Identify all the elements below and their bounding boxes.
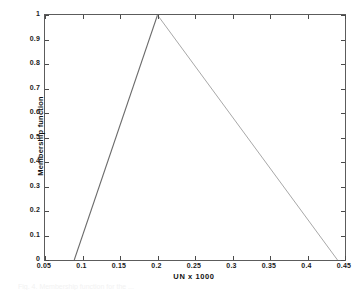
y-tick-right xyxy=(341,162,345,163)
x-tick xyxy=(195,256,196,260)
x-tick xyxy=(233,256,234,260)
y-tick xyxy=(45,64,49,65)
y-tick xyxy=(45,89,49,90)
y-tick xyxy=(45,138,49,139)
x-tick-top xyxy=(120,15,121,19)
x-tick-label: 0.1 xyxy=(76,262,86,270)
y-tick-right xyxy=(341,138,345,139)
x-tick-label: 0.4 xyxy=(301,262,311,270)
y-axis-label: Membership function xyxy=(36,96,45,176)
x-tick-top xyxy=(83,15,84,19)
y-tick-right xyxy=(341,113,345,114)
y-tick xyxy=(45,236,49,237)
y-tick-label: 0.9 xyxy=(30,35,40,43)
y-tick xyxy=(45,40,49,41)
x-tick-label: 0.05 xyxy=(37,262,51,270)
y-tick-right xyxy=(341,15,345,16)
x-tick-top xyxy=(195,15,196,19)
y-tick-label: 0.2 xyxy=(30,206,40,214)
y-tick xyxy=(45,211,49,212)
x-tick-top xyxy=(233,15,234,19)
x-tick xyxy=(270,256,271,260)
x-tick-label: 0.35 xyxy=(262,262,276,270)
x-tick xyxy=(120,256,121,260)
x-tick-label: 0.3 xyxy=(226,262,236,270)
y-tick xyxy=(45,15,49,16)
y-tick-right xyxy=(341,40,345,41)
y-tick-right xyxy=(341,236,345,237)
y-tick xyxy=(45,113,49,114)
y-tick-right xyxy=(341,64,345,65)
y-tick-label: 0 xyxy=(36,255,40,263)
y-tick-label: 1 xyxy=(36,10,40,18)
y-tick xyxy=(45,162,49,163)
series-falling-edge xyxy=(158,15,338,260)
x-tick xyxy=(158,256,159,260)
x-tick-label: 0.2 xyxy=(151,262,161,270)
y-tick-right xyxy=(341,260,345,261)
x-tick xyxy=(308,256,309,260)
y-tick-right xyxy=(341,187,345,188)
series-rising-edge xyxy=(74,15,157,260)
membership-function-curve xyxy=(45,15,345,260)
y-tick xyxy=(45,187,49,188)
y-tick-label: 0.7 xyxy=(30,84,40,92)
y-tick-label: 0.8 xyxy=(30,59,40,67)
x-axis-label: UN x 1000 xyxy=(173,272,214,281)
figure-container: 0.050.10.150.20.250.30.350.40.45 00.10.2… xyxy=(0,0,359,293)
x-tick-label: 0.15 xyxy=(112,262,126,270)
y-tick-label: 0.3 xyxy=(30,182,40,190)
y-tick-right xyxy=(341,211,345,212)
x-tick-top xyxy=(270,15,271,19)
y-tick xyxy=(45,260,49,261)
x-tick-top xyxy=(308,15,309,19)
y-tick-right xyxy=(341,89,345,90)
x-tick-top xyxy=(345,15,346,19)
x-tick-label: 0.25 xyxy=(187,262,201,270)
x-tick xyxy=(345,256,346,260)
y-tick-label: 0.1 xyxy=(30,231,40,239)
plot-area xyxy=(44,14,346,261)
x-tick-label: 0.45 xyxy=(337,262,351,270)
x-tick xyxy=(83,256,84,260)
x-tick-top xyxy=(158,15,159,19)
figure-caption: Fig. 4. Membership function for the ... xyxy=(18,283,318,290)
